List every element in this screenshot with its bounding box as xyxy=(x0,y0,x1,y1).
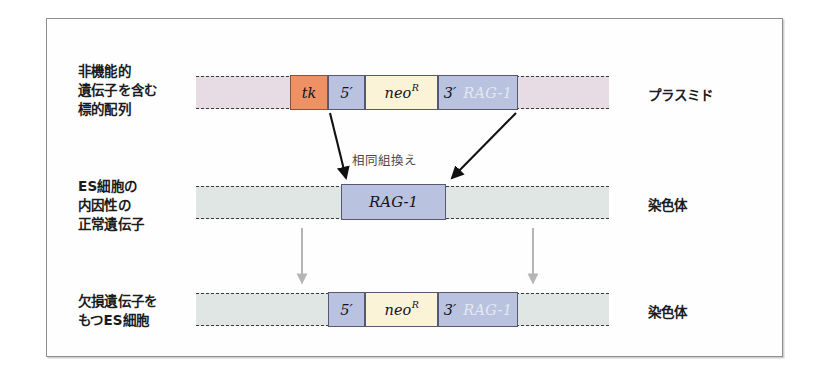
segment-five-prime-label-bottom: 5′ xyxy=(340,302,353,318)
segment-tk-label: tk xyxy=(302,85,317,101)
side-label-chromosome-bottom: 染色体 xyxy=(648,301,687,321)
segment-five-prime-label-top: 5′ xyxy=(340,85,353,101)
segment-three-prime-ghost-bottom: RAG-1 xyxy=(463,302,512,318)
row-label-targeted-allele: 欠損遺伝子を もつES細胞 xyxy=(78,292,157,330)
segment-tk: tk xyxy=(290,75,328,110)
figure-root: 非機能的 遺伝子を含む 標的配列 tk 5′ neoR 3′RAG-1 プラスミ… xyxy=(0,0,823,378)
segment-neo-bottom: neoR xyxy=(365,292,438,327)
segment-five-prime-arm-top: 5′ xyxy=(328,75,365,110)
segment-three-prime-arm-top: 3′RAG-1 xyxy=(438,75,518,110)
segment-three-prime-ghost-top: RAG-1 xyxy=(463,85,512,101)
segment-neo-label-bottom: neo xyxy=(385,302,412,318)
row-label-targeting-construct: 非機能的 遺伝子を含む 標的配列 xyxy=(78,62,157,119)
side-label-chromosome-top: 染色体 xyxy=(648,194,687,214)
segment-three-prime-arm-bottom: 3′RAG-1 xyxy=(438,292,518,327)
side-label-plasmid: プラスミド xyxy=(648,84,713,104)
segment-neo-label-top: neo xyxy=(385,85,412,101)
segment-neo-top: neoR xyxy=(365,75,438,110)
segment-three-prime-label-bottom: 3′ xyxy=(444,302,457,318)
segment-five-prime-arm-bottom: 5′ xyxy=(328,292,365,327)
recombination-annotation: 相同組換え xyxy=(352,150,417,169)
segment-three-prime-label-top: 3′ xyxy=(444,85,457,101)
row-label-endogenous-gene: ES細胞の 内因性の 正常遺伝子 xyxy=(78,177,144,234)
segment-rag1-gene: RAG-1 xyxy=(341,184,446,220)
segment-rag1-label: RAG-1 xyxy=(369,193,418,211)
